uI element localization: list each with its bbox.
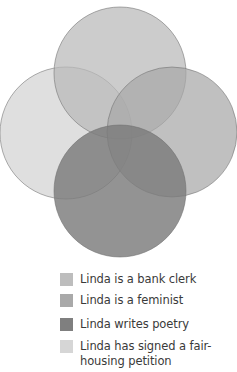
- legend-swatch: [60, 294, 73, 307]
- legend-item-feminist: Linda is a feminist: [60, 293, 230, 308]
- legend-label: Linda has signed a fair-housing petition: [80, 339, 230, 369]
- venn-diagram: [0, 0, 237, 262]
- legend-swatch: [60, 340, 73, 353]
- legend-label: Linda is a bank clerk: [80, 272, 230, 287]
- legend-item-poetry: Linda writes poetry: [60, 317, 230, 332]
- legend-item-bank-clerk: Linda is a bank clerk: [60, 272, 230, 287]
- legend-label: Linda writes poetry: [80, 317, 230, 332]
- venn-circle-poetry: [54, 125, 186, 257]
- legend-label: Linda is a feminist: [80, 293, 230, 308]
- legend-swatch: [60, 273, 73, 286]
- legend-item-petition: Linda has signed a fair-housing petition: [60, 339, 230, 369]
- legend-swatch: [60, 318, 73, 331]
